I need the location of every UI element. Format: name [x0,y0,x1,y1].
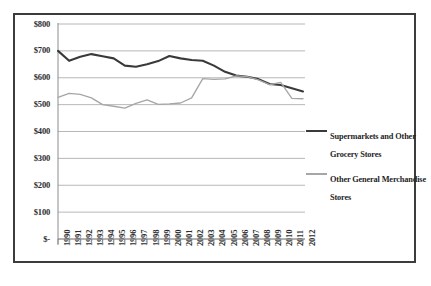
legend-label: Other General Merchandise Stores [330,175,426,202]
chart-legend: Supermarkets and Other Grocery StoresOth… [306,125,431,211]
series-line-0 [58,51,303,92]
legend-label: Supermarkets and Other Grocery Stores [330,132,416,159]
thick-dark-line-swatch [306,130,327,132]
figure-container: $-$100$200$300$400$500$600$700$800 19901… [0,0,431,286]
chart-frame: $-$100$200$300$400$500$600$700$800 19901… [13,13,416,263]
series-lines-group [58,51,303,108]
gridlines-group [58,24,305,239]
series-line-1 [58,76,303,108]
x-axis-ticks-group [58,239,303,244]
legend-entry-0: Supermarkets and Other Grocery Stores [306,125,431,161]
thin-gray-line-swatch [306,173,327,175]
legend-entry-1: Other General Merchandise Stores [306,168,431,204]
